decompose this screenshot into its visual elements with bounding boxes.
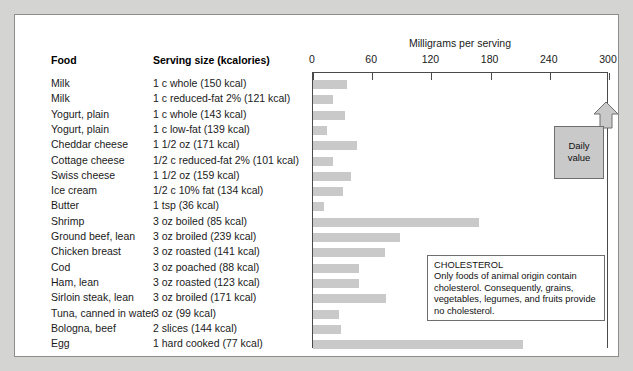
row-food-label: Yogurt, plain <box>51 123 155 135</box>
row-food-label: Bologna, beef <box>51 322 155 334</box>
chart-row: Shrimp3 oz boiled (85 kcal) <box>15 215 633 230</box>
row-serving-label: 1 c whole (150 kcal) <box>153 77 313 89</box>
note-title: CHOLESTEROL <box>434 260 598 271</box>
bar <box>313 187 343 196</box>
row-serving-label: 2 slices (144 kcal) <box>153 322 313 334</box>
row-food-label: Milk <box>51 77 155 89</box>
daily-value-callout: Daily value <box>554 126 604 179</box>
bar <box>313 172 351 181</box>
bar <box>313 111 345 120</box>
bar <box>313 218 479 227</box>
bar <box>313 279 359 288</box>
row-food-label: Shrimp <box>51 215 155 227</box>
x-tick-label: 300 <box>599 53 617 65</box>
row-serving-label: 1 tsp (36 kcal) <box>153 199 313 211</box>
chart-row: Yogurt, plain1 c low-fat (139 kcal) <box>15 123 633 138</box>
x-tick-label: 60 <box>365 53 377 65</box>
row-serving-label: 3 oz broiled (239 kcal) <box>153 230 313 242</box>
row-serving-label: 1 1/2 oz (171 kcal) <box>153 138 313 150</box>
bar <box>313 340 523 349</box>
daily-value-line-1: Daily <box>568 140 589 151</box>
row-food-label: Butter <box>51 199 155 211</box>
cholesterol-note-callout: CHOLESTEROL Only foods of animal origin … <box>427 255 605 321</box>
row-food-label: Chicken breast <box>51 245 155 257</box>
axis-title: Milligrams per serving <box>312 37 608 49</box>
chart-row: Cottage cheese1/2 c reduced-fat 2% (101 … <box>15 154 633 169</box>
row-serving-label: 3 oz roasted (141 kcal) <box>153 245 313 257</box>
chart-row: Milk1 c reduced-fat 2% (121 kcal) <box>15 92 633 107</box>
bar <box>313 126 327 135</box>
chart-row: Ground beef, lean3 oz broiled (239 kcal) <box>15 230 633 245</box>
bar <box>313 95 333 104</box>
row-food-label: Ground beef, lean <box>51 230 155 242</box>
chart-row: Bologna, beef2 slices (144 kcal) <box>15 322 633 337</box>
row-food-label: Egg <box>51 337 155 349</box>
row-food-label: Yogurt, plain <box>51 108 155 120</box>
row-serving-label: 1 c low-fat (139 kcal) <box>153 123 313 135</box>
x-tick-label: 240 <box>540 53 558 65</box>
row-food-label: Tuna, canned in water <box>51 307 155 319</box>
row-serving-label: 1 1/2 oz (159 kcal) <box>153 169 313 181</box>
row-serving-label: 1/2 c 10% fat (134 kcal) <box>153 184 313 196</box>
bar <box>313 233 400 242</box>
row-serving-label: 1 c whole (143 kcal) <box>153 108 313 120</box>
column-header-food: Food <box>51 54 77 66</box>
row-serving-label: 3 oz boiled (85 kcal) <box>153 215 313 227</box>
row-food-label: Ham, lean <box>51 276 155 288</box>
note-body: Only foods of animal origin contain chol… <box>434 271 598 317</box>
row-food-label: Sirloin steak, lean <box>51 291 155 303</box>
row-serving-label: 3 oz (99 kcal) <box>153 307 313 319</box>
row-serving-label: 3 oz roasted (123 kcal) <box>153 276 313 288</box>
bar <box>313 325 341 334</box>
bar <box>313 248 385 257</box>
row-food-label: Cheddar cheese <box>51 138 155 150</box>
chart-row: Cheddar cheese1 1/2 oz (171 kcal) <box>15 138 633 153</box>
bar <box>313 264 359 273</box>
chart-row: Ice cream1/2 c 10% fat (134 kcal) <box>15 184 633 199</box>
chart-row: Butter1 tsp (36 kcal) <box>15 199 633 214</box>
chart-row: Yogurt, plain1 c whole (143 kcal) <box>15 108 633 123</box>
chart-row: Egg1 hard cooked (77 kcal) <box>15 337 633 352</box>
figure-panel: Milligrams per serving Food Serving size… <box>14 14 619 357</box>
bar <box>313 294 386 303</box>
row-food-label: Cod <box>51 261 155 273</box>
row-food-label: Ice cream <box>51 184 155 196</box>
row-food-label: Cottage cheese <box>51 154 155 166</box>
daily-value-line-2: value <box>568 152 591 163</box>
row-serving-label: 1 c reduced-fat 2% (121 kcal) <box>153 92 313 104</box>
up-arrow-icon <box>593 101 619 129</box>
row-serving-label: 1 hard cooked (77 kcal) <box>153 337 313 349</box>
row-serving-label: 3 oz broiled (171 kcal) <box>153 291 313 303</box>
chart-row: Swiss cheese1 1/2 oz (159 kcal) <box>15 169 633 184</box>
bar <box>313 157 333 166</box>
x-tick-label: 0 <box>309 53 315 65</box>
x-tick-label: 180 <box>481 53 499 65</box>
bar <box>313 141 357 150</box>
column-header-serving-size: Serving size (kcalories) <box>153 54 270 66</box>
row-food-label: Milk <box>51 92 155 104</box>
chart-row: Milk1 c whole (150 kcal) <box>15 77 633 92</box>
row-serving-label: 1/2 c reduced-fat 2% (101 kcal) <box>153 154 313 166</box>
row-serving-label: 3 oz poached (88 kcal) <box>153 261 313 273</box>
bar <box>313 80 347 89</box>
bar <box>313 310 339 319</box>
bar <box>313 202 324 211</box>
row-food-label: Swiss cheese <box>51 169 155 181</box>
x-tick-label: 120 <box>422 53 440 65</box>
